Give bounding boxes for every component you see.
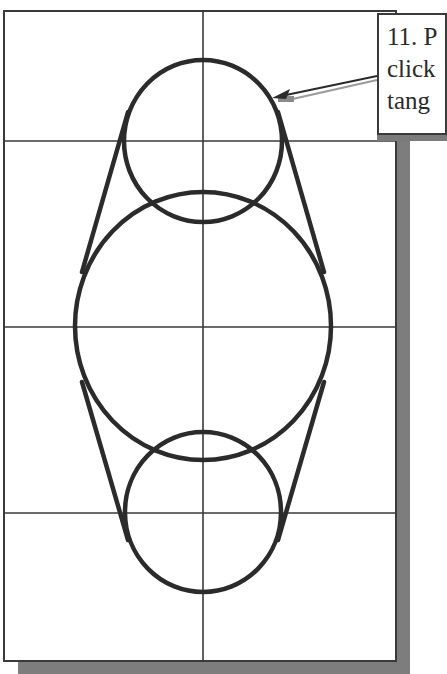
drawing-frame bbox=[4, 11, 396, 661]
callout-line-2: click bbox=[387, 53, 445, 85]
callout-shadow bbox=[377, 135, 447, 141]
callout-line-1: 11. P bbox=[387, 21, 445, 53]
callout-line-3: tang bbox=[387, 85, 445, 117]
instruction-callout: 11. P click tang bbox=[377, 13, 447, 135]
